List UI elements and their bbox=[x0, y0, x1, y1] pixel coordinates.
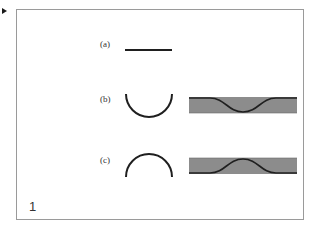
figure-number: 1 bbox=[29, 199, 36, 214]
concave-arc-b bbox=[126, 94, 172, 117]
band-b bbox=[189, 97, 297, 113]
band-c bbox=[189, 158, 297, 174]
diagram-graphics bbox=[0, 0, 313, 231]
convex-arc-c bbox=[126, 154, 172, 177]
